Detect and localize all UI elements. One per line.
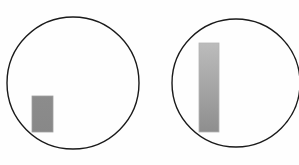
left-figure: [7, 17, 139, 149]
right-bar: [199, 43, 219, 132]
left-circle: [7, 17, 139, 149]
right-figure: [172, 19, 299, 147]
diagram-svg: [0, 0, 299, 165]
right-circle: [172, 19, 299, 147]
left-bar: [32, 96, 53, 132]
diagram-canvas: [0, 0, 299, 165]
